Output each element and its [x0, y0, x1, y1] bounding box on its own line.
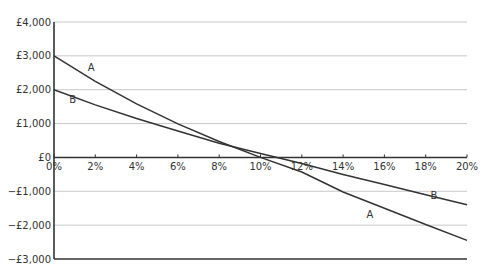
y-tick-label: −£1,000: [8, 186, 51, 197]
y-tick-label: £4,000: [16, 17, 51, 28]
y-tick-label: £1,000: [16, 118, 51, 129]
series-label-b: B: [69, 94, 76, 105]
x-tick-label: 4%: [129, 161, 145, 172]
npv-line-chart: £4,000£3,000£2,000£1,000£0−£1,000−£2,000…: [0, 0, 493, 272]
series-label-a: A: [367, 209, 374, 220]
x-tick-label: 16%: [373, 161, 395, 172]
y-tick-label: £2,000: [16, 84, 51, 95]
x-tick-label: 10%: [249, 161, 271, 172]
series-label-b: B: [431, 190, 438, 201]
x-tick-label: 20%: [456, 161, 478, 172]
x-tick-label: 0%: [46, 161, 62, 172]
y-tick-label: £3,000: [16, 50, 51, 61]
x-tick-label: 14%: [332, 161, 354, 172]
y-tick-label: −£2,000: [8, 220, 51, 231]
series-line-a: [54, 56, 467, 241]
x-tick-label: 18%: [415, 161, 437, 172]
series-line-b: [54, 90, 467, 205]
x-tick-label: 8%: [211, 161, 227, 172]
series-label-a: A: [88, 62, 95, 73]
x-tick-label: 2%: [87, 161, 103, 172]
y-tick-label: −£3,000: [8, 254, 51, 265]
x-tick-label: 6%: [170, 161, 186, 172]
